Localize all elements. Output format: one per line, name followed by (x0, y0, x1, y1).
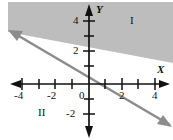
y-tick-label-4: 4 (73, 15, 79, 26)
y-tick-label-neg2: -2 (66, 108, 75, 119)
region-label-two: II (38, 107, 45, 118)
y-tick-label-2: 2 (73, 45, 79, 56)
x-tick-label-neg4: -4 (14, 90, 23, 101)
boundary-line-arrow-upper-left (8, 30, 23, 41)
y-axis-arrow-bottom (85, 126, 93, 138)
x-tick-label-neg2: -2 (47, 90, 56, 101)
coordinate-plane-figure: Y X 4 2 -2 -4 -2 0 2 4 I II (0, 0, 173, 140)
x-axis-arrow-right (159, 80, 170, 88)
region-label-one: I (130, 15, 134, 26)
graph-canvas (0, 0, 173, 140)
x-tick-label-zero: 0 (79, 90, 85, 101)
y-axis-label: Y (96, 4, 103, 15)
x-axis-arrow-left (10, 80, 21, 88)
x-axis-label: X (157, 64, 164, 75)
x-tick-label-pos4: 4 (152, 90, 158, 101)
boundary-line-arrow-lower-right (157, 115, 172, 127)
x-tick-label-pos2: 2 (119, 90, 125, 101)
x-axis (10, 78, 170, 90)
